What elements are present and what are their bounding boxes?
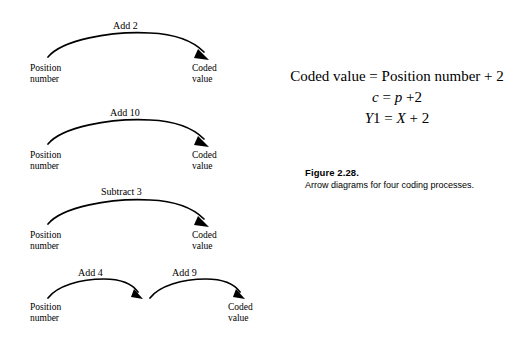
figure-caption-title: Figure 2.28. [305, 166, 520, 179]
target-node-line-2: value [192, 161, 217, 172]
source-node-label: Position number [30, 63, 61, 85]
variable-c: c [372, 89, 379, 105]
source-node-line-2: number [30, 313, 61, 324]
target-node-label: Coded value [192, 63, 217, 85]
source-node-label: Position number [30, 230, 61, 252]
equals-sign-cp: = [382, 89, 390, 105]
variable-y: Y [365, 110, 373, 126]
target-node-label: Coded value [192, 150, 217, 172]
curved-arrow-pair-icon [0, 262, 290, 340]
source-node-line-2: number [30, 74, 61, 85]
source-node-label: Position number [30, 150, 61, 172]
figure-canvas: Add 2 Position number Coded value Add 10… [0, 0, 527, 341]
addend-cp: +2 [406, 89, 422, 105]
addend-y1x: + 2 [410, 110, 430, 126]
target-node-line-1: Coded [192, 150, 217, 161]
source-node-line-1: Position [30, 63, 61, 74]
target-node-line-2: value [192, 74, 217, 85]
arrow-diagram-subtract-3: Subtract 3 Position number Coded value [0, 180, 290, 262]
source-node-line-2: number [30, 161, 61, 172]
figure-caption-text: Arrow diagrams for four coding processes… [305, 179, 520, 191]
variable-p: p [395, 89, 403, 105]
target-node-line-2: value [228, 313, 253, 324]
target-node-line-2: value [192, 241, 217, 252]
target-node-label: Coded value [228, 302, 253, 324]
target-node-line-1: Coded [228, 302, 253, 313]
arrow-diagram-add-4-add-9: Add 4 Add 9 Position number Coded value [0, 262, 290, 340]
source-node-line-1: Position [30, 230, 61, 241]
figure-caption: Figure 2.28. Arrow diagrams for four cod… [305, 166, 520, 191]
arrow-diagram-add-2: Add 2 Position number Coded value [0, 8, 290, 90]
source-node-line-1: Position [30, 302, 61, 313]
target-node-label: Coded value [192, 230, 217, 252]
source-node-label: Position number [30, 302, 61, 324]
arrow-diagram-add-10: Add 10 Position number Coded value [0, 96, 290, 178]
equation-line-y1x: Y1 = X + 2 [272, 108, 522, 129]
variable-y-subscript: 1 [373, 110, 381, 126]
source-node-line-2: number [30, 241, 61, 252]
equation-block: Coded value = Position number + 2 c = p … [272, 66, 522, 129]
target-node-line-1: Coded [192, 230, 217, 241]
source-node-line-1: Position [30, 150, 61, 161]
equals-sign-y1x: = [384, 110, 392, 126]
equation-line-cp: c = p +2 [272, 87, 522, 108]
equation-line-words: Coded value = Position number + 2 [272, 66, 522, 87]
target-node-line-1: Coded [192, 63, 217, 74]
variable-x: X [397, 110, 406, 126]
